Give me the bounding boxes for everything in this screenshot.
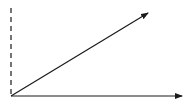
- vector-diagram: [0, 0, 186, 105]
- diagonal-vector-arrow: [11, 13, 148, 96]
